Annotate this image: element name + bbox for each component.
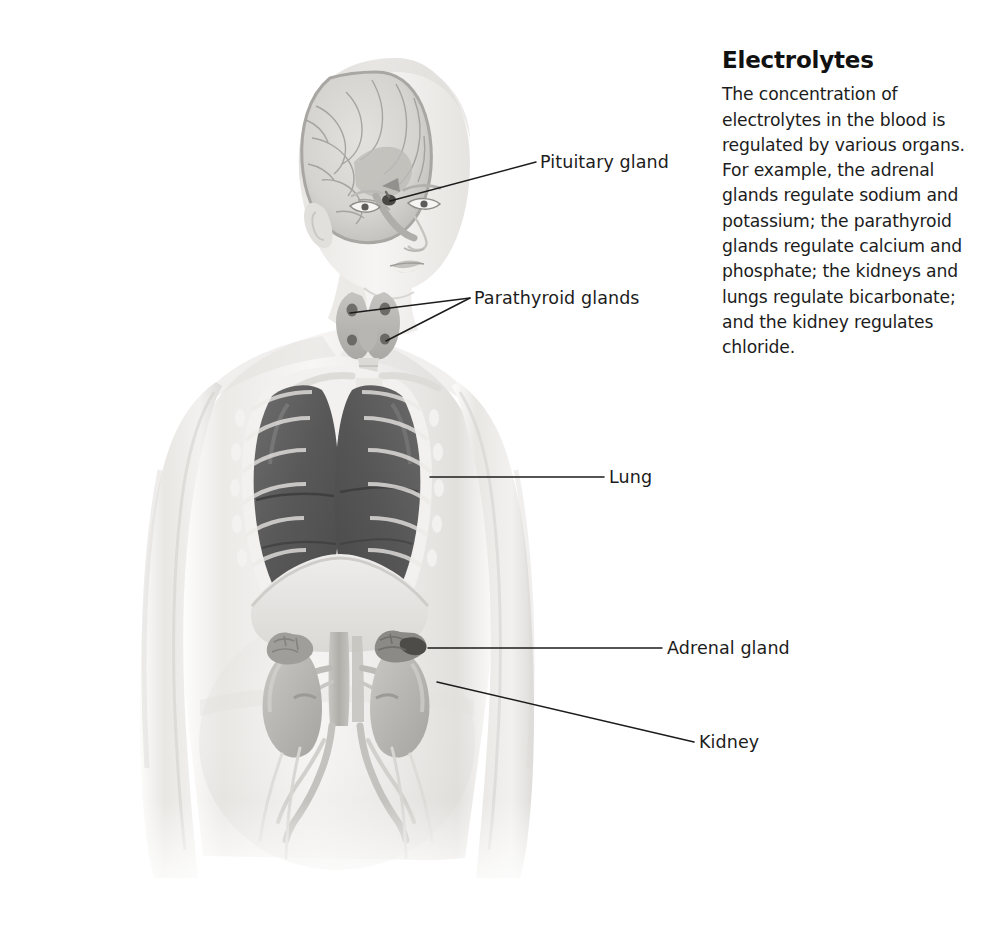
callout-label-parathyroid-glands: Parathyroid glands — [474, 290, 640, 308]
illustration-page: Pituitary gland Parathyroid glands Lung … — [0, 0, 995, 925]
callout-label-kidney: Kidney — [699, 734, 759, 752]
callout-label-adrenal-gland: Adrenal gland — [667, 640, 790, 658]
thorax — [230, 366, 444, 652]
parathyroid-gland-lower-left — [347, 335, 357, 346]
vena-cava — [352, 636, 364, 722]
panel-body-text: The concentration of electrolytes in the… — [722, 82, 990, 360]
aorta-trunk — [329, 632, 350, 726]
panel-title: Electrolytes — [722, 48, 990, 73]
callout-label-lung: Lung — [609, 469, 652, 487]
callout-label-pituitary-gland: Pituitary gland — [540, 154, 669, 172]
parathyroid-gland-upper-left — [347, 304, 358, 317]
electrolytes-text-panel: Electrolytes The concentration of electr… — [722, 48, 990, 360]
bottom-fade — [120, 800, 550, 925]
